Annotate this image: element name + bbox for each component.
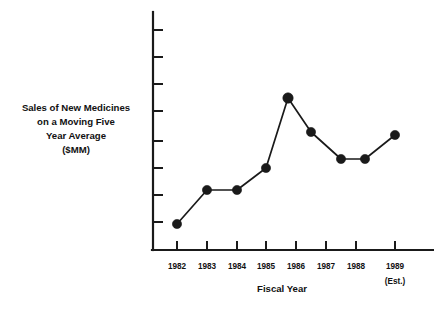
y-axis-title-line-1: Sales of New Medicines (22, 102, 130, 113)
data-point-1982[interactable] (172, 219, 181, 228)
y-axis-ticks (153, 30, 163, 222)
x-axis-label-1983: 1983 (198, 262, 217, 271)
y-axis-title-line-4: ($MM) (62, 144, 90, 155)
data-point-1989[interactable] (390, 130, 399, 139)
x-axis-ticks (177, 241, 395, 250)
x-axis-label-1985: 1985 (257, 262, 276, 271)
data-point-1983[interactable] (202, 185, 211, 194)
x-axis-label-1989: 1989 (386, 262, 405, 271)
x-axis-label-1986: 1986 (287, 262, 306, 271)
x-axis-label-1989-estimate-note: (Est.) (385, 277, 406, 286)
x-axis-label-1984: 1984 (228, 262, 247, 271)
axes (152, 12, 434, 250)
data-point-1986[interactable] (306, 127, 315, 136)
y-axis-title-line-2: on a Moving Five (37, 116, 115, 127)
data-point-1987[interactable] (336, 154, 345, 163)
x-axis-label-1988: 1988 (347, 262, 366, 271)
y-axis-title-line-3: Year Average (46, 130, 106, 141)
series-markers-sales (172, 93, 399, 229)
y-axis-title: Sales of New Medicines on a Moving Five … (22, 102, 130, 155)
data-point-1988[interactable] (360, 154, 369, 163)
line-chart: Sales of New Medicines on a Moving Five … (0, 0, 434, 312)
data-point-peak[interactable] (283, 93, 293, 103)
x-axis-label-1987: 1987 (317, 262, 336, 271)
data-point-1985[interactable] (261, 163, 270, 172)
x-axis-title: Fiscal Year (257, 283, 307, 294)
data-point-1984[interactable] (232, 185, 241, 194)
chart-screenshot: Sales of New Medicines on a Moving Five … (0, 0, 434, 312)
x-axis-label-1982: 1982 (168, 262, 187, 271)
